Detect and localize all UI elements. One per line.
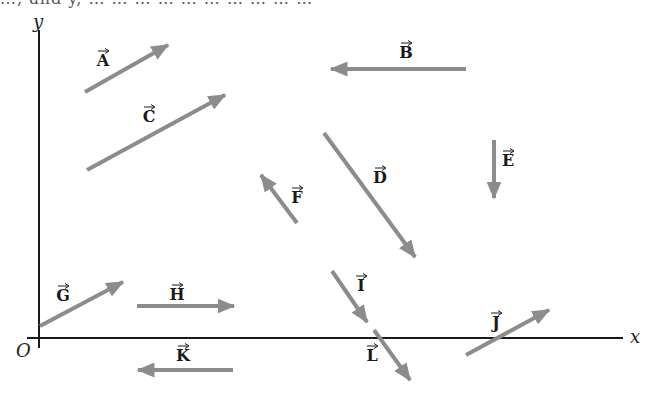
- vectors-group: ABCDEFGHIJKL: [40, 41, 549, 381]
- diagram-svg: y x O ABCDEFGHIJKL: [0, 0, 655, 394]
- vector-d: D: [324, 133, 415, 257]
- vector-a: A: [85, 45, 168, 92]
- vector-label: K: [176, 346, 191, 365]
- vector-h: H: [137, 283, 234, 307]
- vector-i: I: [332, 271, 367, 322]
- vector-label: L: [366, 346, 377, 365]
- vector-label: C: [143, 107, 156, 126]
- vector-label: F: [291, 188, 303, 207]
- vector-label: H: [169, 285, 184, 304]
- vector-arrow-icon: [40, 282, 123, 326]
- vector-e: E: [494, 140, 514, 198]
- vector-j: J: [466, 310, 549, 355]
- vector-arrow-icon: [324, 133, 415, 257]
- vector-arrow-icon: [87, 95, 225, 170]
- vector-b: B: [331, 41, 466, 70]
- vector-label: I: [357, 276, 364, 295]
- vector-label: E: [502, 151, 514, 170]
- vector-label: G: [56, 286, 70, 305]
- vector-label: A: [96, 51, 110, 70]
- vector-label: B: [399, 43, 413, 62]
- vector-f: F: [261, 175, 303, 223]
- vector-diagram: …, and y, … … … … … … … … … … y x O ABCD…: [0, 0, 655, 394]
- x-axis-label: x: [630, 326, 640, 347]
- vector-c: C: [87, 95, 225, 170]
- vector-label: D: [373, 168, 387, 187]
- vector-arrow-icon: [466, 310, 549, 355]
- y-axis-label: y: [32, 11, 44, 32]
- vector-g: G: [40, 282, 123, 326]
- vector-k: K: [138, 344, 233, 371]
- origin-label: O: [16, 340, 31, 361]
